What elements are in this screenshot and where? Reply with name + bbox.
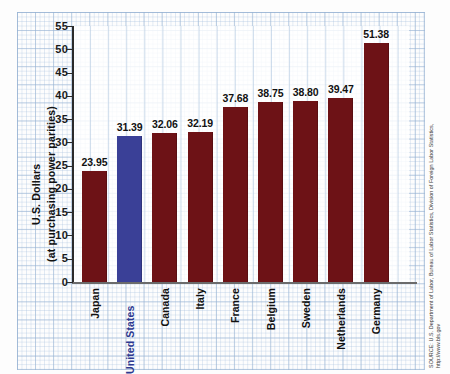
x-category-label: Sweden xyxy=(300,288,311,328)
bar: 23.95 xyxy=(82,171,107,282)
bar-fill xyxy=(188,132,213,282)
x-category-label: France xyxy=(230,288,241,323)
bar-fill xyxy=(152,133,177,282)
bar: 51.38 xyxy=(364,43,389,282)
x-category-label-wrap: Germany xyxy=(364,288,389,374)
y-axis-title-line2: (at purchasing power parities) xyxy=(45,106,57,262)
bar-value-label: 23.95 xyxy=(82,156,108,168)
x-category-label-wrap: United States xyxy=(117,288,142,374)
bar-fill xyxy=(258,102,283,282)
y-axis-tick-labels: 0510152025303540455055 xyxy=(18,0,68,374)
y-tick-mark xyxy=(66,26,73,27)
x-category-label-wrap: Belgium xyxy=(258,288,283,374)
bar-fill xyxy=(223,107,248,282)
bar-value-label: 51.38 xyxy=(363,28,389,40)
y-tick-label: 40 xyxy=(22,90,68,101)
y-axis-line xyxy=(72,26,74,283)
x-category-label-wrap: Italy xyxy=(188,288,213,374)
x-category-label: Netherlands xyxy=(335,288,346,350)
x-category-label: United States xyxy=(124,288,135,374)
bar-fill xyxy=(82,171,107,282)
y-tick-label: 55 xyxy=(22,21,68,32)
y-tick-mark xyxy=(66,49,73,50)
bar: 38.75 xyxy=(258,102,283,282)
y-tick-mark xyxy=(66,142,73,143)
bar-value-label: 32.06 xyxy=(152,118,178,130)
y-tick-mark xyxy=(66,189,73,190)
y-tick-mark xyxy=(66,166,73,167)
x-category-label: Italy xyxy=(195,288,206,310)
y-tick-mark xyxy=(66,119,73,120)
y-axis-title-line1: U.S. Dollars xyxy=(30,164,42,225)
chart-canvas: 0510152025303540455055 U.S. Dollars (at … xyxy=(0,0,450,374)
x-category-label: Canada xyxy=(159,288,170,327)
y-tick-label: 50 xyxy=(22,44,68,55)
x-category-label: Belgium xyxy=(265,288,276,330)
x-category-label: Japan xyxy=(89,288,100,319)
source-note: SOURCE: U.S. Department of Labor, Bureau… xyxy=(428,98,443,368)
bar-value-label: 37.68 xyxy=(222,92,248,104)
bar-fill xyxy=(328,98,353,282)
bar-value-label: 38.75 xyxy=(258,87,284,99)
x-category-label-wrap: Netherlands xyxy=(328,288,353,374)
x-category-label-wrap: Canada xyxy=(152,288,177,374)
y-tick-mark xyxy=(66,73,73,74)
x-category-label: Germany xyxy=(371,288,382,334)
bar: 39.47 xyxy=(328,98,353,282)
bar-fill xyxy=(364,43,389,282)
y-tick-mark xyxy=(66,259,73,260)
bar-value-label: 31.39 xyxy=(117,121,143,133)
y-tick-label: 0 xyxy=(22,277,68,288)
y-tick-label: 45 xyxy=(22,67,68,78)
bar-value-label: 32.19 xyxy=(187,117,213,129)
bar: 38.80 xyxy=(293,101,318,282)
bar: 37.68 xyxy=(223,107,248,282)
y-tick-mark xyxy=(66,96,73,97)
bar: 32.19 xyxy=(188,132,213,282)
bar-fill xyxy=(293,101,318,282)
x-category-label-wrap: France xyxy=(223,288,248,374)
y-tick-mark xyxy=(66,282,73,283)
x-category-label-wrap: Sweden xyxy=(293,288,318,374)
bar-fill xyxy=(117,136,142,282)
y-tick-mark xyxy=(66,235,73,236)
bar-value-label: 39.47 xyxy=(328,83,354,95)
x-category-label-wrap: Japan xyxy=(82,288,107,374)
bar: 31.39 xyxy=(117,136,142,282)
y-tick-mark xyxy=(66,212,73,213)
x-axis-line xyxy=(72,282,417,284)
bar-value-label: 38.80 xyxy=(293,86,319,98)
bar: 32.06 xyxy=(152,133,177,282)
